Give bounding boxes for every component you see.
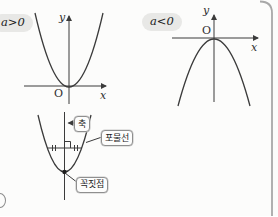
right-angle-mark [65, 142, 71, 149]
panel-border [260, 2, 272, 217]
origin-label: O [202, 24, 211, 37]
parabola-callout-box: 포물선 [101, 130, 133, 146]
y-axis-label: y [202, 4, 210, 17]
figure-negative-a: y O x [172, 4, 258, 106]
x-axis-label: x [100, 89, 107, 102]
y-axis-label: y [58, 11, 66, 24]
axis-callout-box: 축 [74, 116, 90, 132]
vertex-callout-box: 꼭짓점 [76, 177, 108, 193]
condition-label-negative: a<0 [142, 13, 182, 31]
x-axis-label: x [251, 41, 258, 54]
parabola-properties-panel: y O x y O x [0, 0, 278, 216]
figure-positive-a: y O x [24, 11, 107, 104]
condition-label-positive: a>0 [0, 14, 33, 32]
parabola-callout-connector [86, 137, 102, 143]
diagram-canvas: y O x y O x [0, 0, 278, 216]
origin-label: O [54, 87, 63, 100]
